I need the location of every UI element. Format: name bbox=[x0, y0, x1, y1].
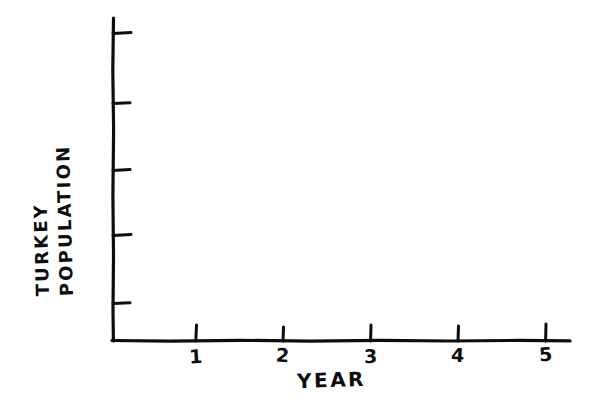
x-tick-label-5: 5 bbox=[538, 343, 554, 366]
y-axis-title-line-1: TURKEY bbox=[30, 203, 53, 297]
y-axis-title-line-2: POPULATION bbox=[52, 144, 77, 296]
x-axis-line bbox=[112, 340, 570, 341]
y-axis-title: TURKEY POPULATION bbox=[36, 96, 82, 296]
x-tick-label-1: 1 bbox=[188, 345, 204, 368]
plot-area bbox=[114, 18, 570, 340]
x-tick-label-2: 2 bbox=[275, 344, 291, 367]
x-tick-label-3: 3 bbox=[364, 345, 379, 368]
x-tick-label-4: 4 bbox=[450, 344, 466, 367]
chart-screenshot: 1 2 3 4 5 YEAR TURKEY POPULATION bbox=[0, 0, 602, 418]
x-axis-title: YEAR bbox=[297, 367, 367, 393]
